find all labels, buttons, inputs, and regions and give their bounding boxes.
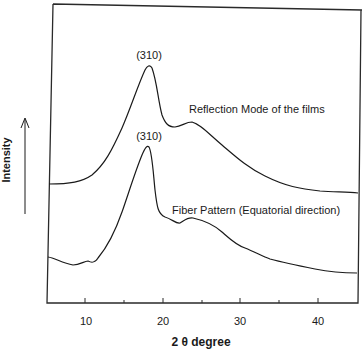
series-label-fiber: Fiber Pattern (Equatorial direction) (172, 204, 340, 216)
x-axis-ticks (85, 298, 318, 303)
series-label-reflection: Reflection Mode of the films (189, 103, 325, 115)
x-tick-label-30: 30 (234, 315, 246, 327)
series-reflection-mode (49, 66, 358, 193)
xrd-chart: (310) (310) Reflection Mode of the films… (0, 0, 363, 353)
y-axis-label: Intensity (0, 137, 12, 183)
x-axis-label: 2 θ degree (171, 335, 231, 349)
peak-label-bottom: (310) (136, 130, 162, 142)
x-tick-label-20: 20 (157, 315, 169, 327)
peak-label-top: (310) (136, 49, 162, 61)
plot-frame (47, 4, 362, 303)
intensity-arrow-icon (21, 118, 29, 214)
x-tick-label-40: 40 (312, 315, 324, 327)
x-tick-label-10: 10 (80, 315, 92, 327)
